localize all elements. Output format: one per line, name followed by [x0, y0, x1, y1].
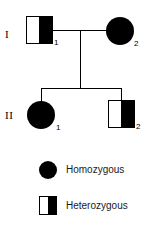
sibling-drop-line-II-2	[121, 88, 122, 100]
generation-label-I: I	[5, 29, 9, 40]
individual-I-1-symbol[interactable]	[26, 16, 53, 44]
legend-circle-filled-icon	[39, 161, 57, 179]
half-fill-shading	[39, 17, 52, 43]
pedigree-diagram: I 1 2 II 1 2 Homozygous Heterozygous	[0, 0, 160, 229]
legend-item-heterozygous: Heterozygous	[39, 196, 128, 215]
half-fill-shading	[121, 101, 134, 127]
sibship-line	[41, 88, 122, 89]
individual-II-2-id: 2	[136, 123, 140, 131]
legend-square-half-filled-icon	[39, 196, 57, 215]
individual-I-2-symbol[interactable]	[106, 17, 134, 45]
individual-II-2-symbol[interactable]	[108, 100, 135, 128]
individual-I-2-id: 2	[134, 40, 138, 48]
individual-II-1-id: 1	[56, 124, 60, 132]
descent-line	[80, 30, 81, 88]
legend-label-heterozygous: Heterozygous	[66, 201, 128, 211]
legend-item-homozygous: Homozygous	[39, 161, 124, 179]
half-fill-shading	[48, 197, 56, 214]
generation-label-II: II	[5, 110, 13, 121]
individual-II-1-symbol[interactable]	[27, 101, 55, 129]
individual-I-1-id: 1	[54, 39, 58, 47]
sibling-drop-line-II-1	[41, 88, 42, 102]
legend-label-homozygous: Homozygous	[66, 165, 124, 175]
